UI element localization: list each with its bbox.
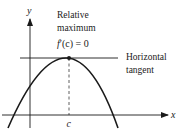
horizontal-tangent-label-line2: tangent <box>126 65 154 75</box>
relative-maximum-label-line1: Relative <box>57 10 89 20</box>
c-label: c <box>67 118 72 129</box>
derivative-expression: ′(c) = 0 <box>60 38 89 50</box>
horizontal-tangent-label-line1: Horizontal <box>126 52 167 62</box>
y-axis-label: y <box>26 5 32 16</box>
derivative-zero-label: f′(c) = 0 <box>57 38 89 50</box>
x-axis-label: x <box>170 109 176 120</box>
relative-maximum-diagram: x y c Relative maximum f′(c) = 0 Horizon… <box>0 0 178 139</box>
relative-maximum-point <box>67 56 71 60</box>
parabola-curve <box>8 58 118 128</box>
relative-maximum-label-line2: maximum <box>57 23 96 33</box>
